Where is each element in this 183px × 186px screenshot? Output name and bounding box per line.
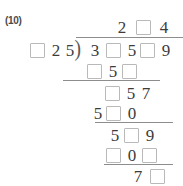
answer-blank-box[interactable] — [106, 106, 121, 121]
answer-blank-box[interactable] — [150, 169, 165, 184]
digit-text: 5 — [109, 63, 118, 80]
answer-blank-box[interactable] — [106, 148, 121, 163]
division-bracket-icon: ) — [75, 37, 82, 60]
digit-text: 4 — [160, 19, 169, 36]
partial-product-1-blank-2[interactable] — [117, 61, 141, 81]
answer-blank-box[interactable] — [106, 43, 121, 58]
partial-product-3-blank-2[interactable] — [137, 145, 161, 165]
answer-blank-box[interactable] — [136, 20, 151, 35]
subtraction-rule-1 — [63, 80, 160, 81]
answer-blank-box[interactable] — [30, 43, 45, 58]
subtraction-rule-2 — [95, 122, 173, 123]
dividend-digit-3: 9 — [154, 40, 178, 60]
answer-blank-box[interactable] — [105, 86, 120, 101]
digit-text: 7 — [134, 168, 143, 185]
digit-text: 2 — [118, 19, 127, 36]
remainder-1-digit-2: 7 — [134, 83, 158, 103]
digit-text: 9 — [162, 42, 171, 59]
digit-text: 0 — [128, 105, 137, 122]
digit-text: 9 — [146, 127, 155, 144]
long-division-problem: (10) 2 4 2 5 ) 3 5 9 5 — [0, 0, 183, 186]
remainder-2-digit-2: 9 — [138, 125, 162, 145]
answer-blank-box[interactable] — [87, 64, 102, 79]
digit-text: 7 — [142, 85, 151, 102]
digit-text: 5 — [111, 127, 120, 144]
answer-blank-box[interactable] — [142, 148, 157, 163]
answer-blank-box[interactable] — [124, 128, 139, 143]
question-number: (10) — [5, 15, 22, 26]
answer-blank-box[interactable] — [140, 43, 155, 58]
digit-text: 0 — [128, 147, 137, 164]
digit-text: 5 — [66, 42, 75, 59]
partial-product-2-digit-2: 0 — [120, 103, 144, 123]
division-vinculum — [76, 37, 183, 38]
final-remainder-blank-1[interactable] — [145, 166, 169, 186]
quotient-digit-2: 4 — [152, 17, 176, 37]
digit-text: 3 — [91, 42, 100, 59]
subtraction-rule-3 — [104, 164, 173, 165]
answer-blank-box[interactable] — [122, 64, 137, 79]
